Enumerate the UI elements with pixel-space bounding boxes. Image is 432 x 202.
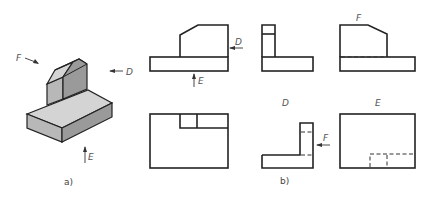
label-E-a: E bbox=[88, 152, 94, 162]
side-view bbox=[262, 25, 313, 71]
top-view bbox=[150, 114, 228, 168]
arrow-E-b bbox=[192, 73, 196, 87]
view-D bbox=[262, 123, 313, 168]
label-F-b: F bbox=[323, 133, 329, 143]
orthographic-projection-figure: F D E a) D E F D bbox=[0, 0, 432, 202]
label-D-view: D bbox=[282, 98, 289, 108]
label-F-view: F bbox=[356, 13, 362, 23]
caption-b: b) bbox=[280, 176, 289, 186]
view-E bbox=[340, 114, 415, 168]
arrow-F-b bbox=[316, 143, 330, 147]
front-view bbox=[150, 25, 228, 71]
label-E-b: E bbox=[198, 76, 204, 86]
arrow-D-a bbox=[109, 69, 123, 73]
label-F-a: F bbox=[16, 53, 22, 63]
caption-a: a) bbox=[64, 177, 73, 187]
arrow-E-a bbox=[83, 146, 87, 163]
label-E-view: E bbox=[375, 98, 381, 108]
view-F bbox=[340, 25, 415, 71]
label-D-b: D bbox=[235, 37, 242, 47]
arrow-F-a bbox=[25, 58, 39, 64]
label-D-a: D bbox=[126, 67, 133, 77]
isometric-part bbox=[27, 59, 112, 142]
